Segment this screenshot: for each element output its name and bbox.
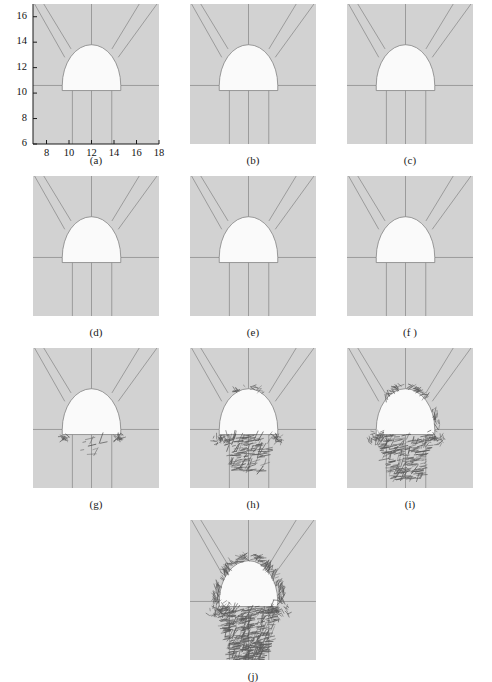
- panel-h-caption: (h): [190, 498, 316, 510]
- panel-g: [33, 348, 159, 488]
- y-tick-label: 12: [5, 61, 27, 72]
- y-tick-label: 14: [5, 35, 27, 46]
- panel-g-plot: [33, 348, 159, 488]
- panel-i-caption: (i): [347, 498, 473, 510]
- panel-i-plot: [347, 348, 473, 488]
- panel-b-plot: [190, 4, 316, 144]
- panel-a-caption: (a): [33, 154, 159, 166]
- panel-c: [347, 4, 473, 144]
- panel-i: [347, 348, 473, 488]
- panel-e: [190, 176, 316, 316]
- panel-f: [347, 176, 473, 316]
- panel-e-plot: [190, 176, 316, 316]
- y-tick-label: 16: [5, 10, 27, 21]
- panel-a-plot: [33, 4, 159, 144]
- panel-b: [190, 4, 316, 144]
- panel-j: [190, 520, 316, 660]
- panel-f-plot: [347, 176, 473, 316]
- y-tick-label: 6: [5, 137, 27, 148]
- panel-h: [190, 348, 316, 488]
- panel-d-plot: [33, 176, 159, 316]
- panel-c-plot: [347, 4, 473, 144]
- panel-j-plot: [190, 520, 316, 660]
- panel-d: [33, 176, 159, 316]
- panel-c-caption: (c): [347, 154, 473, 166]
- panel-a: [33, 4, 159, 144]
- panel-f-caption: (f ): [347, 326, 473, 338]
- panel-e-caption: (e): [190, 326, 316, 338]
- y-tick-label: 10: [5, 86, 27, 97]
- panel-h-plot: [190, 348, 316, 488]
- panel-b-caption: (b): [190, 154, 316, 166]
- y-tick-label: 8: [5, 112, 27, 123]
- panel-g-caption: (g): [33, 498, 159, 510]
- panel-d-caption: (d): [33, 326, 159, 338]
- panel-j-caption: (j): [190, 670, 316, 682]
